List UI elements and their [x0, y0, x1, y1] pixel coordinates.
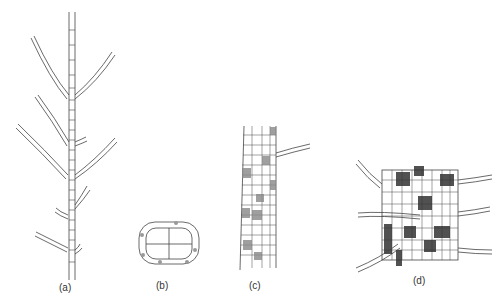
panel-a-label: (a)	[59, 282, 71, 293]
panel-a-drawing	[16, 12, 117, 280]
panel-c-label: (c)	[249, 280, 261, 291]
panel-c-drawing	[240, 126, 310, 270]
panel-b-drawing	[139, 221, 199, 264]
panel-d-label: (d)	[413, 275, 425, 286]
panel-d-drawing	[356, 160, 492, 272]
figure-canvas	[0, 0, 501, 300]
panel-b-label: (b)	[156, 280, 168, 291]
